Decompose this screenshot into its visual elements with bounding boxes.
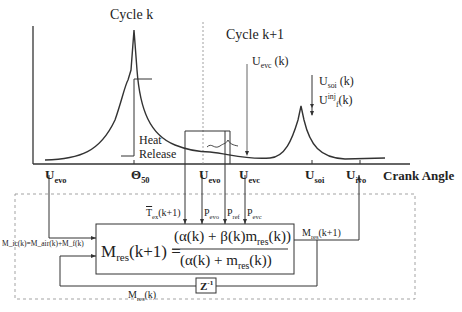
- tick-theta50: Θ50: [131, 168, 150, 184]
- cycle-k-label: Cycle k: [110, 8, 153, 22]
- tick-uevc: Uevc: [239, 168, 260, 184]
- m-ic-input-label: M_ic(k)=M_air(k)+M_f(k): [2, 240, 84, 248]
- heat-release-label-1: Heat: [139, 134, 162, 146]
- tick-uivo: Uivo: [346, 168, 366, 184]
- equation-denominator: (α(k) + mres(k)): [180, 253, 272, 271]
- t-ex-input-label: Tex(k+1): [146, 208, 181, 221]
- p-evo-input-label: Pevo: [204, 208, 219, 221]
- delay-block-label: Z-1: [200, 280, 213, 292]
- p-evc-input-label: Pevc: [247, 208, 262, 221]
- uinj-k-annotation: Uinjf(k): [319, 93, 353, 109]
- equation-lhs: Mres(k+1) =: [101, 243, 181, 263]
- equation-numerator: (α(k) + β(k)mres(k)): [174, 229, 291, 247]
- usoi-k-annotation: Usoi (k): [319, 75, 354, 90]
- heat-release-label-2: Release: [139, 148, 176, 160]
- m-res-k-feedback-label: Mres(k): [128, 290, 156, 303]
- tick-usoi: Usoi: [305, 168, 324, 184]
- m-res-k1-output-label: Mres(k+1): [302, 228, 341, 241]
- crank-angle-label: Crank Angle: [383, 169, 454, 182]
- brace: [207, 140, 238, 147]
- uevc-k-annotation: Uevc (k): [252, 55, 289, 70]
- valve-box: [185, 131, 230, 164]
- tick-uevo-1: Uevo: [45, 168, 67, 184]
- tick-uevo-2: Uevo: [199, 168, 221, 184]
- cycle-k1-label: Cycle k+1: [226, 28, 284, 42]
- p-ref-input-label: Pref: [227, 208, 240, 221]
